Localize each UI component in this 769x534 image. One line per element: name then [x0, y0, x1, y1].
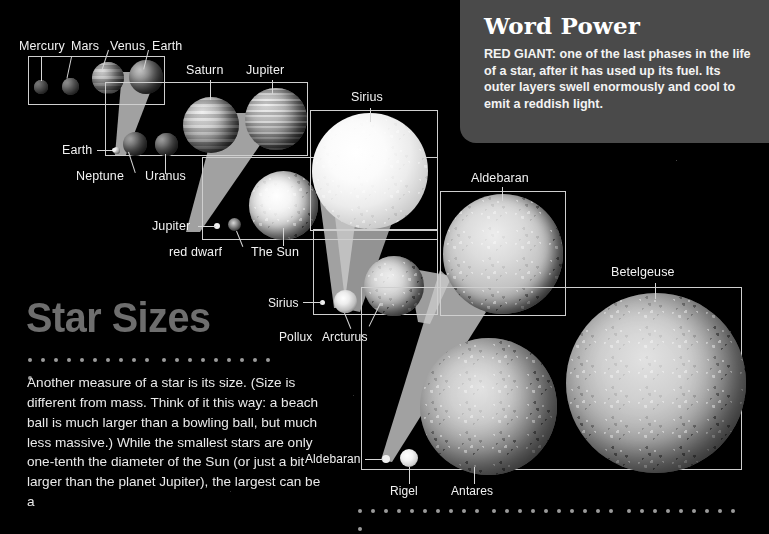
label-sirius-mid: Sirius	[268, 297, 299, 309]
leader-mercury	[41, 57, 42, 81]
leader-sirius-mid	[303, 302, 322, 303]
label-venus: Venus	[110, 40, 145, 53]
label-jupiter-top: Jupiter	[246, 64, 284, 77]
label-rigel: Rigel	[390, 485, 418, 497]
planet-saturn	[183, 97, 239, 153]
label-aldebaran-top: Aldebaran	[471, 172, 529, 185]
label-the-sun: The Sun	[251, 246, 299, 259]
infographic-stage: Mercury Mars Venus Earth Earth Neptune U…	[0, 0, 769, 534]
leader-saturn	[210, 80, 211, 100]
star-sirius	[312, 113, 428, 229]
planet-uranus	[155, 133, 178, 156]
page-title: Star Sizes	[26, 296, 211, 339]
leader-aldebaran-top	[502, 187, 503, 201]
star-red-dwarf	[228, 218, 241, 231]
label-antares: Antares	[451, 485, 493, 497]
leader-sirius-top	[370, 108, 371, 122]
label-pollux: Pollux	[279, 331, 312, 343]
label-jupiter-mid: Jupiter	[152, 220, 190, 233]
leader-jupiter-mid	[198, 226, 216, 227]
leader-betelgeuse	[655, 283, 656, 299]
planet-neptune	[123, 132, 147, 156]
label-mercury: Mercury	[19, 40, 65, 53]
star-rigel	[400, 449, 418, 467]
label-earth-mid: Earth	[62, 144, 92, 157]
leader-aldebaran-bottom	[365, 459, 383, 460]
planet-jupiter-mid	[245, 88, 307, 150]
label-neptune: Neptune	[76, 170, 124, 183]
word-power-title: Word Power	[484, 14, 751, 37]
word-power-definition: RED GIANT: one of the last phases in the…	[484, 46, 751, 113]
article-body: Another measure of a star is its size. (…	[27, 373, 327, 512]
leader-jupiter-top	[272, 80, 273, 94]
star-antares	[420, 338, 557, 475]
marker-aldebaran-bottom	[382, 455, 390, 463]
divider-dotted-left	[28, 358, 290, 362]
label-betelgeuse: Betelgeuse	[611, 266, 675, 279]
leader-the-sun	[283, 228, 284, 246]
label-saturn: Saturn	[186, 64, 223, 77]
label-red-dwarf: red dwarf	[169, 246, 222, 259]
star-betelgeuse	[566, 293, 746, 473]
word-power-card: Word Power RED GIANT: one of the last ph…	[460, 0, 769, 143]
label-earth-top: Earth	[152, 40, 182, 53]
label-mars: Mars	[71, 40, 99, 53]
label-uranus: Uranus	[145, 170, 186, 183]
divider-dotted-bottom	[358, 509, 748, 513]
marker-earth-mid	[112, 148, 116, 152]
label-sirius-top: Sirius	[351, 91, 383, 104]
planet-mars	[62, 78, 79, 95]
planet-mercury	[34, 80, 48, 94]
leader-antares	[474, 467, 475, 484]
star-pollux	[334, 290, 357, 313]
leader-rigel	[409, 467, 410, 484]
